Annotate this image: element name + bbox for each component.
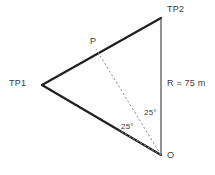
label-tp2: TP2 [167,4,184,14]
label-angle-lower: 25° [121,122,134,132]
label-radius: R = 75 m [167,78,205,88]
label-angle-upper: 25° [144,108,157,118]
label-p: P [90,36,96,46]
geometry-diagram: TP1 TP2 P O R = 75 m 25° 25° [0,0,215,175]
label-tp1: TP1 [9,78,26,88]
label-o: O [167,150,174,160]
